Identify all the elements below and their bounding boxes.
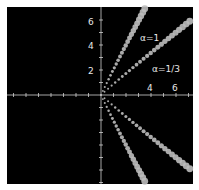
y-tick-label-2: 2 <box>88 66 94 76</box>
annotation-alpha-1-3: α=1/3 <box>152 64 180 74</box>
annotation-alpha-1: α=1 <box>140 33 159 43</box>
y-tick-label-4: 4 <box>88 41 94 51</box>
x-tick-label-4: 4 <box>147 83 153 93</box>
x-tick-label-6: 6 <box>172 83 178 93</box>
scatter-plot: 6 4 2 4 6 α=1 α=1/3 <box>0 0 199 190</box>
y-tick-label-6: 6 <box>88 17 94 27</box>
